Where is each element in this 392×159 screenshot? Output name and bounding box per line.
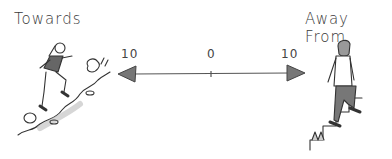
- arrow-left-icon: [118, 66, 136, 82]
- stair-climber-figure-icon: [310, 40, 362, 150]
- arrow-right-icon: [287, 65, 305, 81]
- runner-figure-icon: [18, 43, 110, 135]
- diagram-canvas: [0, 0, 392, 159]
- double-arrow-scale: [118, 65, 305, 82]
